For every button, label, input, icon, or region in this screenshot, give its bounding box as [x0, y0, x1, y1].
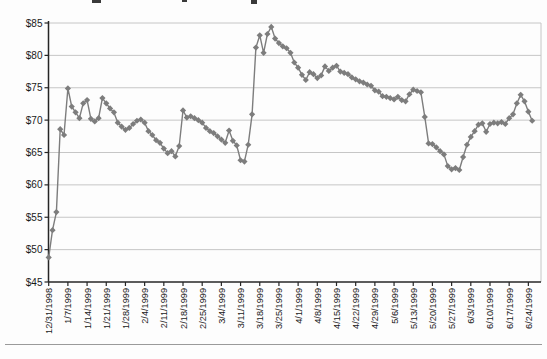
x-axis-label: 4/22/1999 — [351, 288, 361, 329]
data-point-marker — [46, 254, 52, 260]
x-axis-label: 3/18/1999 — [255, 288, 265, 329]
x-axis-label: 6/17/1999 — [505, 288, 515, 329]
x-axis-label: 1/7/1999 — [63, 288, 73, 324]
x-axis-label: 2/18/1999 — [179, 288, 189, 329]
x-axis-label: 3/25/1999 — [274, 288, 284, 329]
x-axis-label: 6/3/1999 — [466, 288, 476, 324]
x-axis-label: 1/14/1999 — [83, 288, 93, 329]
y-axis-label: $55 — [26, 212, 43, 223]
price-line-chart: $85$80$75$70$65$60$55$50$4512/31/19981/7… — [0, 0, 547, 359]
data-point-marker — [65, 85, 71, 91]
data-point-marker — [422, 114, 428, 120]
x-axis-label: 5/20/1999 — [428, 288, 438, 329]
x-axis-label: 1/28/1999 — [121, 288, 131, 329]
x-axis-label: 2/25/1999 — [198, 288, 208, 329]
x-axis-label: 12/31/1998 — [44, 288, 54, 334]
x-axis-label: 3/11/1999 — [236, 288, 246, 328]
x-axis-label: 4/15/1999 — [332, 288, 342, 329]
data-point-marker — [49, 227, 55, 233]
y-axis-label: $75 — [26, 82, 43, 93]
x-axis-label: 4/1/1999 — [294, 288, 304, 324]
data-point-marker — [460, 154, 466, 160]
data-point-marker — [245, 142, 251, 148]
data-point-marker — [180, 107, 186, 113]
series-line — [49, 27, 533, 258]
y-axis-label: $50 — [26, 244, 43, 255]
data-point-marker — [518, 92, 524, 98]
x-axis-label: 1/21/1999 — [102, 288, 112, 329]
y-axis-label: $45 — [26, 277, 43, 288]
data-point-marker — [525, 109, 531, 115]
data-point-marker — [529, 118, 535, 124]
y-axis-label: $80 — [26, 50, 43, 61]
page-divider-line — [5, 344, 542, 345]
data-point-marker — [483, 129, 489, 135]
x-axis-label: 3/4/1999 — [217, 288, 227, 324]
x-axis-label: 4/8/1999 — [313, 288, 323, 324]
data-point-marker — [176, 143, 182, 149]
data-point-marker — [226, 127, 232, 133]
x-axis-label: 5/13/1999 — [409, 288, 419, 329]
chart-page: $85$80$75$70$65$60$55$50$4512/31/19981/7… — [0, 0, 547, 359]
data-point-marker — [521, 98, 527, 104]
x-axis-label: 6/10/1999 — [485, 288, 495, 329]
x-axis-label: 5/6/1999 — [390, 288, 400, 324]
data-point-marker — [53, 209, 59, 215]
data-point-marker — [249, 111, 255, 117]
y-axis-label: $60 — [26, 179, 43, 190]
data-point-marker — [253, 45, 259, 51]
y-axis-label: $85 — [26, 18, 43, 29]
data-point-marker — [464, 142, 470, 148]
data-point-marker — [268, 24, 274, 30]
x-axis-label: 6/24/1999 — [524, 288, 534, 329]
y-axis-label: $70 — [26, 115, 43, 126]
x-axis-label: 2/11/1999 — [159, 288, 169, 328]
data-point-marker — [257, 32, 263, 38]
x-axis-label: 2/4/1999 — [140, 288, 150, 324]
data-point-marker — [514, 100, 520, 106]
x-axis-label: 4/29/1999 — [370, 288, 380, 329]
y-axis-label: $65 — [26, 147, 43, 158]
data-point-marker — [264, 31, 270, 37]
x-axis-label: 5/27/1999 — [447, 288, 457, 329]
